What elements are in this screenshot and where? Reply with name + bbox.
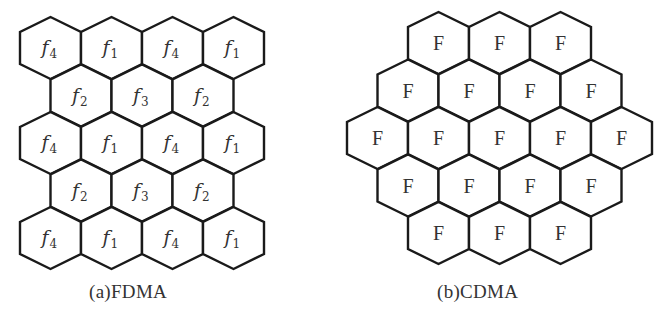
cdma-cell-label: F bbox=[463, 80, 474, 102]
cdma-cell-label: F bbox=[433, 222, 444, 244]
cdma-cell-label: F bbox=[494, 127, 505, 149]
fdma-hex-grid: f4f1f4f1f2f3f2f4f1f4f1f2f3f2f4f1f4f1 bbox=[20, 17, 264, 269]
cdma-hex-grid: FFFFFFFFFFFFFFFFFFF bbox=[347, 12, 652, 264]
cdma-cell-label: F bbox=[463, 175, 474, 197]
cdma-cell-label: F bbox=[616, 127, 627, 149]
cdma-caption: (b)CDMA bbox=[437, 281, 518, 303]
cdma-cell-label: F bbox=[494, 222, 505, 244]
cdma-cell-label: F bbox=[402, 80, 413, 102]
cdma-cell-label: F bbox=[433, 127, 444, 149]
cdma-cell-label: F bbox=[555, 32, 566, 54]
cdma-cell-label: F bbox=[555, 222, 566, 244]
cdma-cell-label: F bbox=[585, 80, 596, 102]
cdma-cell-label: F bbox=[555, 127, 566, 149]
cdma-cell-label: F bbox=[402, 175, 413, 197]
cell-reuse-diagram: f4f1f4f1f2f3f2f4f1f4f1f2f3f2f4f1f4f1 FFF… bbox=[0, 0, 659, 323]
cdma-cell-label: F bbox=[372, 127, 383, 149]
cdma-cell-label: F bbox=[524, 80, 535, 102]
cdma-cell-label: F bbox=[494, 32, 505, 54]
cdma-cell-label: F bbox=[433, 32, 444, 54]
cdma-cell-label: F bbox=[585, 175, 596, 197]
cdma-cell-label: F bbox=[524, 175, 535, 197]
fdma-caption: (a)FDMA bbox=[89, 281, 167, 303]
